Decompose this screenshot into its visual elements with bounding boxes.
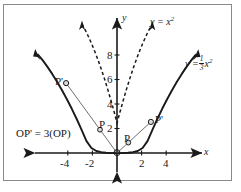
annotation-relation: OP' = 3(OP) [16,128,71,139]
ray-left [66,83,117,153]
y-tick-label-4: 4 [107,99,113,110]
x-axis-label: x [204,147,208,157]
point-label-P-left: P [99,119,105,130]
curve-label-y-equals-one-third-x-squared: y =13x2 [185,55,212,71]
plot-canvas [0,0,241,192]
curve-label-base: y = x [150,16,171,27]
y-tick-label-8: 8 [107,50,113,61]
point-label-P-right: P [124,133,130,144]
point-label-Pprime-left: P' [55,76,63,87]
y-tick-label-6: 6 [107,74,113,85]
curve-label-exponent: 2 [209,57,212,64]
curve-label-exponent: 2 [171,15,174,22]
graph-figure: x y -4 -2 2 4 2 4 6 8 y = x2 y =13x2 P' … [0,0,241,192]
x-tick-label-2: 2 [139,158,145,169]
curve-label-base: y = [185,58,199,69]
x-tick-label-neg4: -4 [60,158,69,169]
point-marker-Pprime-right [148,119,153,124]
ray-right [117,122,151,153]
y-tick-label-2: 2 [107,123,113,134]
point-label-Pprime-right: P' [155,114,163,125]
x-tick-label-neg2: -2 [85,158,94,169]
x-tick-label-4: 4 [163,158,169,169]
y-axis-label: y [122,13,126,23]
curve-label-y-equals-x-squared: y = x2 [150,16,174,27]
point-marker-Pprime-left [64,81,69,86]
